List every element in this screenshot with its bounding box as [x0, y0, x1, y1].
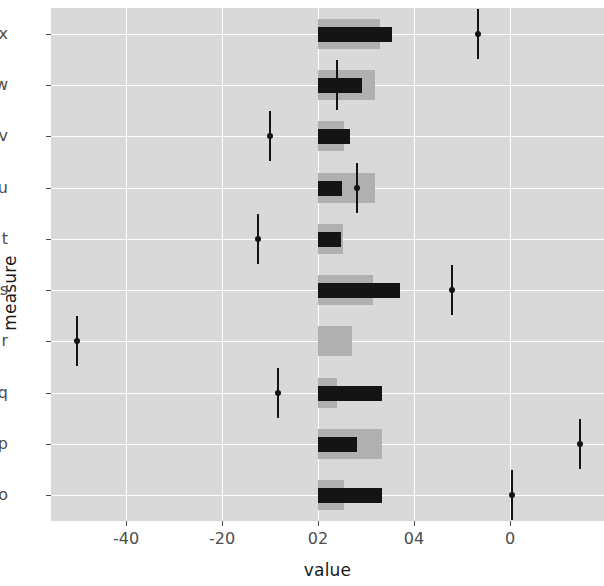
x-tick	[510, 521, 511, 526]
point-dot-w	[334, 82, 340, 88]
y-tick	[46, 495, 51, 496]
x-tick-label-2: 02	[288, 529, 348, 548]
y-tick-label-q: q	[0, 383, 8, 402]
y-tick	[46, 188, 51, 189]
bar-dark-w	[318, 78, 362, 93]
bar-dark-q	[318, 386, 382, 401]
y-tick-label-r: r	[0, 331, 8, 350]
x-tick-label-1: -20	[192, 529, 252, 548]
y-tick-label-p: p	[0, 434, 8, 453]
y-tick-label-v: v	[0, 126, 8, 145]
bar-dark-p	[318, 437, 357, 452]
bar-dark-t	[318, 232, 341, 247]
x-axis-title: value	[51, 558, 604, 582]
x-tick-label-3: 04	[384, 529, 444, 548]
point-dot-t	[255, 236, 261, 242]
y-tick	[46, 341, 51, 342]
chart-figure: measure value xwvutsrqpo-40-2002040	[0, 0, 604, 586]
x-tick	[318, 521, 319, 526]
point-dot-v	[267, 133, 273, 139]
x-tick-label-0: -40	[96, 529, 156, 548]
point-dot-o	[509, 492, 515, 498]
x-tick	[414, 521, 415, 526]
point-dot-r	[74, 338, 80, 344]
plot-panel	[51, 8, 604, 521]
bar-dark-o	[318, 488, 382, 503]
y-tick-label-t: t	[0, 229, 8, 248]
y-tick-label-o: o	[0, 485, 8, 504]
x-tick	[222, 521, 223, 526]
point-dot-u	[354, 185, 360, 191]
x-tick-label-4: 0	[480, 529, 540, 548]
y-tick	[46, 34, 51, 35]
y-tick	[46, 290, 51, 291]
y-tick	[46, 85, 51, 86]
point-dot-x	[475, 31, 481, 37]
y-tick	[46, 444, 51, 445]
bar-wide-r	[318, 326, 352, 356]
point-dot-p	[577, 441, 583, 447]
x-tick	[126, 521, 127, 526]
bar-dark-v	[318, 129, 350, 144]
y-tick-label-x: x	[0, 24, 8, 43]
y-tick	[46, 136, 51, 137]
bar-dark-x	[318, 27, 392, 42]
y-tick-label-s: s	[0, 280, 8, 299]
y-tick-label-u: u	[0, 178, 8, 197]
bar-dark-s	[318, 283, 400, 298]
y-tick	[46, 239, 51, 240]
y-tick	[46, 393, 51, 394]
bar-dark-u	[318, 181, 342, 196]
point-dot-s	[449, 287, 455, 293]
y-tick-label-w: w	[0, 75, 8, 94]
point-dot-q	[275, 390, 281, 396]
